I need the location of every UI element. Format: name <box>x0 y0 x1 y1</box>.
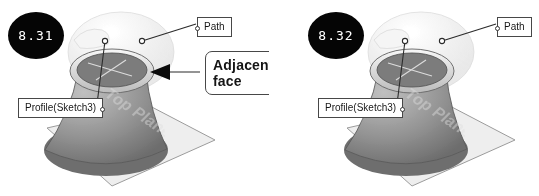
step-badge-2-text: 8.32 <box>318 28 353 43</box>
profile-label-1[interactable]: Profile(Sketch3) <box>18 98 103 118</box>
path-connector-icon <box>495 26 500 31</box>
cad-figure: Top Plane 8.31 Path Profile(Sketc <box>0 0 539 196</box>
step-badge-1-text: 8.31 <box>18 28 53 43</box>
step-badge-1: 8.31 <box>8 12 64 59</box>
profile-label-2-text: Profile(Sketch3) <box>325 102 396 113</box>
path-label-1[interactable]: Path <box>197 17 232 37</box>
anchor-profile <box>402 38 407 43</box>
profile-label-1-text: Profile(Sketch3) <box>25 102 96 113</box>
anchor-profile <box>102 38 107 43</box>
figure-panel-2: Top Plane 8.32 Path Profile(Sketch3) <box>270 0 539 196</box>
path-connector-icon <box>195 26 200 31</box>
path-label-2-text: Path <box>504 21 525 32</box>
profile-label-2[interactable]: Profile(Sketch3) <box>318 98 403 118</box>
anchor-path <box>139 38 144 43</box>
step-badge-2: 8.32 <box>308 12 364 59</box>
path-label-1-text: Path <box>204 21 225 32</box>
adjacent-face-label[interactable]: Adjacent face <box>205 51 269 95</box>
path-label-2[interactable]: Path <box>497 17 532 37</box>
figure-panel-1: Top Plane 8.31 Path Profile(Sketc <box>0 0 269 196</box>
adjacent-face-label-text: Adjacent face <box>213 57 269 89</box>
anchor-path <box>439 38 444 43</box>
